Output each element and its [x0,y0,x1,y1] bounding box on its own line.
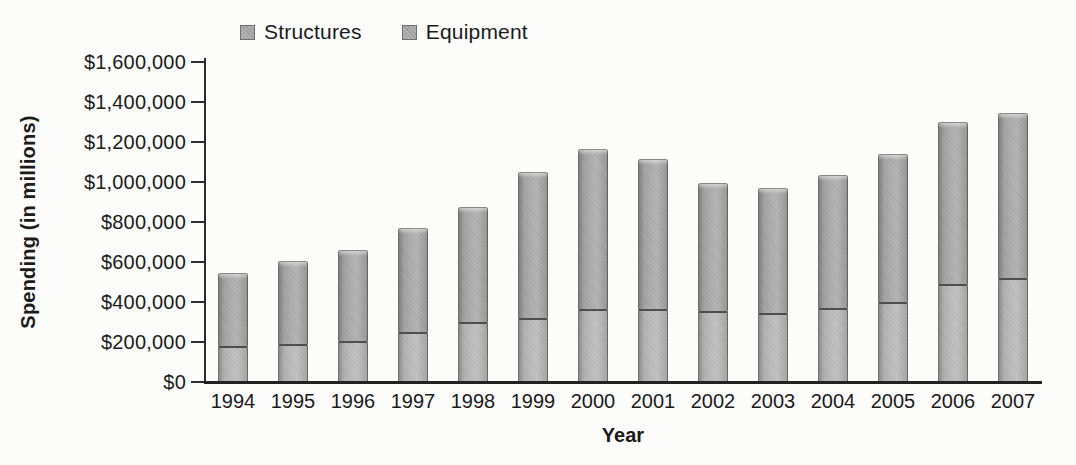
bar-segment-equipment [278,261,308,346]
bar-segment-equipment [398,228,428,334]
y-tick-label: $600,000 [0,251,186,273]
equipment-swatch-icon [402,25,417,40]
bar-segment-equipment [878,154,908,304]
y-axis-tick [191,221,205,223]
y-axis-tick [191,181,205,183]
bar-segment-equipment [218,273,248,348]
x-tick-label: 1997 [381,390,445,413]
x-tick-label: 2005 [861,390,925,413]
bar-segment-structures [398,334,428,382]
bar-segment-structures [998,280,1028,382]
legend-item-structures: Structures [240,20,362,44]
y-tick-label: $1,000,000 [0,171,186,193]
stacked-bar-chart: Structures Equipment Spending (in millio… [0,0,1076,465]
x-axis-title: Year [204,424,1042,447]
bar-segment-structures [878,304,908,382]
bar-segment-structures [218,348,248,382]
x-tick-label: 1994 [201,390,265,413]
x-tick-label: 2006 [921,390,985,413]
y-axis-tick [191,261,205,263]
bar-segment-equipment [938,122,968,286]
bar-segment-structures [818,310,848,382]
bar-segment-equipment [638,159,668,311]
x-tick-label: 2000 [561,390,625,413]
y-tick-label: $1,600,000 [0,51,186,73]
bar-segment-equipment [758,188,788,315]
y-tick-label: $1,200,000 [0,131,186,153]
y-tick-label: $400,000 [0,291,186,313]
bar-segment-structures [578,311,608,382]
y-tick-label: $200,000 [0,331,186,353]
bar-segment-structures [518,320,548,382]
x-tick-label: 1998 [441,390,505,413]
legend-label-structures: Structures [264,20,362,44]
y-axis-tick [191,101,205,103]
bar-segment-equipment [698,183,728,313]
bar-segment-structures [278,346,308,382]
x-tick-label: 2004 [801,390,865,413]
y-axis-tick [191,141,205,143]
bar-segment-structures [758,315,788,382]
bar-segment-equipment [338,250,368,343]
y-tick-label: $1,400,000 [0,91,186,113]
bar-segment-equipment [818,175,848,310]
bar-segment-structures [338,343,368,382]
legend-label-equipment: Equipment [426,20,528,44]
x-tick-label: 1995 [261,390,325,413]
x-tick-label: 1999 [501,390,565,413]
bar-segment-structures [638,311,668,382]
bar-segment-structures [938,286,968,382]
bar-segment-structures [458,324,488,382]
bar-segment-equipment [458,207,488,324]
x-tick-label: 2007 [981,390,1045,413]
structures-swatch-icon [240,25,255,40]
y-axis-tick [191,61,205,63]
x-tick-label: 2003 [741,390,805,413]
bar-segment-equipment [998,113,1028,280]
y-axis-tick [191,341,205,343]
bar-segment-equipment [518,172,548,320]
legend-item-equipment: Equipment [402,20,528,44]
bar-segment-equipment [578,149,608,311]
y-tick-label: $800,000 [0,211,186,233]
legend: Structures Equipment [240,20,528,44]
y-axis-tick [191,381,205,383]
x-tick-label: 2001 [621,390,685,413]
y-axis-line [204,58,206,384]
bar-segment-structures [698,313,728,382]
x-tick-label: 2002 [681,390,745,413]
x-tick-label: 1996 [321,390,385,413]
y-tick-label: $0 [0,371,186,393]
x-axis-line [204,381,1042,384]
y-axis-tick [191,301,205,303]
